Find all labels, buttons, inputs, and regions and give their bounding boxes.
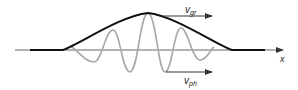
carrier-wave <box>72 13 214 72</box>
group-velocity-label: vgr <box>185 4 197 17</box>
envelope-curve <box>30 13 265 50</box>
x-axis-label: x <box>279 54 285 64</box>
phase-velocity-label: vph <box>184 75 197 88</box>
wave-packet-diagram: vgr vph x <box>0 0 298 90</box>
